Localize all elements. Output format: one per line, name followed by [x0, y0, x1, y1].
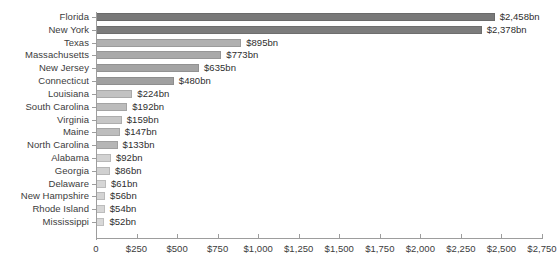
bar[interactable] [96, 39, 241, 47]
bar-value-label: $2,458bn [500, 11, 540, 23]
y-axis-tick [92, 68, 96, 69]
y-axis-tick [92, 145, 96, 146]
x-axis-tick [420, 234, 421, 238]
y-axis-tick [92, 158, 96, 159]
y-axis-tick [92, 120, 96, 121]
bar[interactable] [96, 218, 104, 226]
bar-value-label: $480bn [179, 75, 211, 87]
x-axis-tick [177, 234, 178, 238]
x-axis-tick [137, 234, 138, 238]
bar-row: Texas$895bn [0, 37, 557, 49]
bar-value-label: $86bn [115, 165, 142, 177]
bar-row: Alabama$92bn [0, 152, 557, 164]
y-axis-tick [92, 17, 96, 18]
bar-row: South Carolina$192bn [0, 101, 557, 113]
category-label: New Hampshire [0, 190, 89, 202]
y-axis-tick [92, 43, 96, 44]
bar[interactable] [96, 167, 110, 175]
bar[interactable] [96, 77, 174, 85]
bar[interactable] [96, 51, 221, 59]
x-axis-tick [461, 234, 462, 238]
category-label: New Jersey [0, 62, 89, 74]
category-label: Alabama [0, 152, 89, 164]
bar[interactable] [96, 90, 132, 98]
y-axis-tick [92, 94, 96, 95]
x-axis-tick [299, 234, 300, 238]
bar-row: New Jersey$635bn [0, 62, 557, 74]
x-axis-tick [96, 234, 97, 238]
x-axis-tick [542, 234, 543, 238]
bar-row: Virginia$159bn [0, 114, 557, 126]
bar[interactable] [96, 128, 120, 136]
bar-value-label: $56bn [110, 190, 137, 202]
bar-row: Delaware$61bn [0, 178, 557, 190]
category-label: Connecticut [0, 75, 89, 87]
y-axis-tick [92, 209, 96, 210]
x-axis-tick-label: $2,750 [512, 243, 557, 254]
bar[interactable] [96, 103, 127, 111]
x-axis-tick [380, 234, 381, 238]
y-axis-tick [92, 30, 96, 31]
x-axis-tick [339, 234, 340, 238]
category-label: Mississippi [0, 216, 89, 228]
bar-value-label: $147bn [125, 126, 157, 138]
y-axis-tick [92, 55, 96, 56]
y-axis-tick [92, 171, 96, 172]
bar-row: Florida$2,458bn [0, 11, 557, 23]
y-axis-tick [92, 107, 96, 108]
category-label: New York [0, 24, 89, 36]
bar-value-label: $2,378bn [487, 24, 527, 36]
bar-value-label: $773bn [226, 49, 258, 61]
bar[interactable] [96, 116, 122, 124]
bar-value-label: $61bn [111, 178, 138, 190]
bar[interactable] [96, 192, 105, 200]
bar-value-label: $52bn [109, 216, 136, 228]
bar-value-label: $192bn [132, 101, 164, 113]
bar[interactable] [96, 205, 105, 213]
bar[interactable] [96, 154, 111, 162]
bar-row: Mississippi$52bn [0, 216, 557, 228]
bar-row: New Hampshire$56bn [0, 190, 557, 202]
bar-row: Louisiana$224bn [0, 88, 557, 100]
category-label: Louisiana [0, 88, 89, 100]
category-label: Rhode Island [0, 203, 89, 215]
bar-value-label: $92bn [116, 152, 143, 164]
y-axis-tick [92, 196, 96, 197]
bar-row: Maine$147bn [0, 126, 557, 138]
category-label: Delaware [0, 178, 89, 190]
bar[interactable] [96, 13, 495, 21]
bar-row: North Carolina$133bn [0, 139, 557, 151]
bar-value-label: $159bn [127, 114, 159, 126]
bar-row: Massachusetts$773bn [0, 49, 557, 61]
y-axis-tick [92, 184, 96, 185]
x-axis-line [96, 238, 543, 239]
x-axis-tick [218, 234, 219, 238]
bar[interactable] [96, 141, 118, 149]
bar-row: New York$2,378bn [0, 24, 557, 36]
category-label: Virginia [0, 114, 89, 126]
bar-row: Georgia$86bn [0, 165, 557, 177]
y-axis-line [96, 12, 97, 240]
y-axis-tick [92, 132, 96, 133]
category-label: Maine [0, 126, 89, 138]
bar-value-label: $635bn [204, 62, 236, 74]
category-label: Texas [0, 37, 89, 49]
category-label: Georgia [0, 165, 89, 177]
bar-row: Connecticut$480bn [0, 75, 557, 87]
x-axis-tick [501, 234, 502, 238]
y-axis-tick [92, 222, 96, 223]
bar-row: Rhode Island$54bn [0, 203, 557, 215]
category-label: Florida [0, 11, 89, 23]
bar-value-label: $224bn [137, 88, 169, 100]
x-axis-tick [258, 234, 259, 238]
bar-value-label: $895bn [246, 37, 278, 49]
bar-chart: Florida$2,458bnNew York$2,378bnTexas$895… [0, 0, 557, 268]
bar[interactable] [96, 26, 482, 34]
y-axis-tick [92, 81, 96, 82]
bar[interactable] [96, 64, 199, 72]
bar-value-label: $54bn [110, 203, 137, 215]
category-label: North Carolina [0, 139, 89, 151]
bar-value-label: $133bn [123, 139, 155, 151]
category-label: Massachusetts [0, 49, 89, 61]
bar[interactable] [96, 180, 106, 188]
